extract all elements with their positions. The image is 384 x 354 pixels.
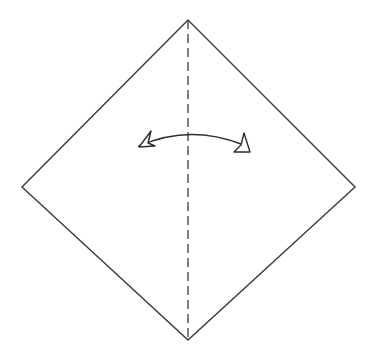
origami-diagram-root [0,0,384,354]
origami-figure-svg [0,0,384,354]
